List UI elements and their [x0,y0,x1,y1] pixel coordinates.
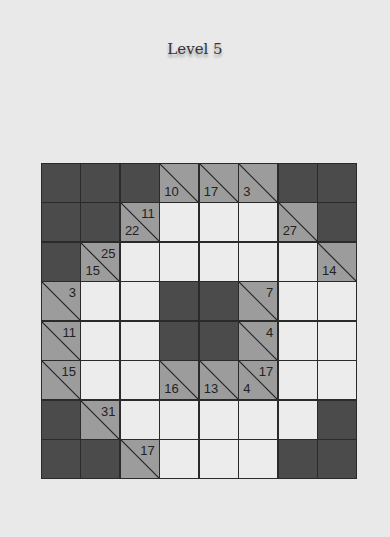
clue-cell: 1122 [121,203,159,241]
entry-cell[interactable] [121,401,159,439]
across-clue: 17 [140,444,154,457]
entry-cell[interactable] [200,440,238,478]
blocked-cell [318,401,356,439]
entry-cell[interactable] [279,243,317,281]
blocked-cell [200,322,238,360]
down-clue: 15 [85,264,99,277]
clue-cell: 11 [42,322,80,360]
clue-cell: 7 [239,282,277,320]
entry-cell[interactable] [239,440,277,478]
entry-cell[interactable] [81,282,119,320]
across-clue: 7 [266,286,273,299]
across-clue: 11 [62,326,76,339]
blocked-cell [42,401,80,439]
entry-cell[interactable] [239,401,277,439]
blocked-cell [279,440,317,478]
across-clue: 31 [101,405,115,418]
entry-cell[interactable] [279,282,317,320]
clue-cell: 3 [42,282,80,320]
down-clue: 10 [164,185,178,198]
entry-cell[interactable] [81,361,119,399]
clue-cell: 13 [200,361,238,399]
level-title: Level 5 [0,40,390,58]
down-clue: 16 [164,382,178,395]
entry-cell[interactable] [81,322,119,360]
entry-cell[interactable] [279,361,317,399]
blocked-cell [42,243,80,281]
blocked-cell [318,203,356,241]
clue-cell: 17 [121,440,159,478]
blocked-cell [81,164,119,202]
blocked-cell [160,322,198,360]
blocked-cell [318,440,356,478]
across-clue: 17 [259,365,273,378]
clue-cell: 3 [239,164,277,202]
blocked-cell [42,440,80,478]
down-clue: 22 [125,224,139,237]
across-clue: 11 [141,207,155,220]
clue-cell: 16 [160,361,198,399]
entry-cell[interactable] [318,322,356,360]
across-clue: 4 [266,326,273,339]
down-clue: 4 [243,382,250,395]
clue-cell: 27 [279,203,317,241]
clue-cell: 174 [239,361,277,399]
entry-cell[interactable] [318,361,356,399]
blocked-cell [200,282,238,320]
entry-cell[interactable] [160,440,198,478]
blocked-cell [42,203,80,241]
entry-cell[interactable] [239,203,277,241]
clue-cell: 31 [81,401,119,439]
entry-cell[interactable] [318,282,356,320]
blocked-cell [81,203,119,241]
entry-cell[interactable] [200,401,238,439]
entry-cell[interactable] [121,322,159,360]
entry-cell[interactable] [279,322,317,360]
down-clue: 13 [204,382,218,395]
down-clue: 27 [283,224,297,237]
blocked-cell [121,164,159,202]
blocked-cell [42,164,80,202]
blocked-cell [81,440,119,478]
across-clue: 3 [69,286,76,299]
entry-cell[interactable] [200,243,238,281]
across-clue: 15 [61,365,75,378]
blocked-cell [318,164,356,202]
clue-cell: 15 [42,361,80,399]
across-clue: 25 [101,247,115,260]
entry-cell[interactable] [121,243,159,281]
clue-cell: 10 [160,164,198,202]
entry-cell[interactable] [160,401,198,439]
kakuro-grid: 10173112227251514371141516131743117 [41,163,357,479]
entry-cell[interactable] [279,401,317,439]
blocked-cell [279,164,317,202]
down-clue: 3 [243,185,250,198]
entry-cell[interactable] [239,243,277,281]
entry-cell[interactable] [200,203,238,241]
clue-cell: 4 [239,322,277,360]
down-clue: 14 [322,264,336,277]
clue-cell: 17 [200,164,238,202]
clue-cell: 2515 [81,243,119,281]
blocked-cell [160,282,198,320]
entry-cell[interactable] [121,361,159,399]
entry-cell[interactable] [160,203,198,241]
entry-cell[interactable] [121,282,159,320]
clue-cell: 14 [318,243,356,281]
down-clue: 17 [204,185,218,198]
entry-cell[interactable] [160,243,198,281]
